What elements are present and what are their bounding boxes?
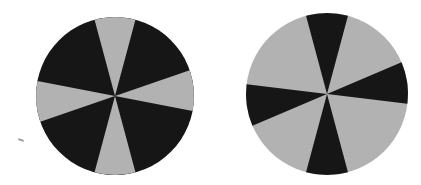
- wedge-circles-figure: [0, 0, 421, 185]
- right-circle: [246, 13, 408, 175]
- left-circle: [36, 17, 194, 175]
